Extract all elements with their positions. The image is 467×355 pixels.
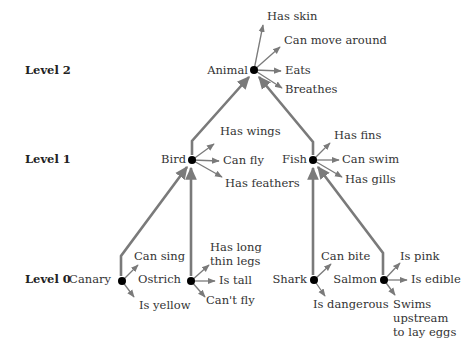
node-label-fish: Fish — [282, 152, 307, 166]
attr-salmon-is-edible: Is edible — [411, 272, 461, 286]
node-label-animal: Animal — [207, 63, 248, 77]
node-ostrich — [187, 277, 195, 285]
attr-ostrich-is-tall: Is tall — [219, 273, 252, 287]
attr-bird-has-feathers: Has feathers — [225, 176, 300, 190]
attr-shark-can-bite: Can bite — [321, 249, 370, 263]
attr-salmon-swims-upstream: Swims upstream to lay eggs — [393, 297, 456, 339]
attr-salmon-is-pink: Is pink — [400, 249, 440, 263]
node-fish — [309, 156, 317, 164]
attr-fish-can-swim: Can swim — [342, 152, 399, 166]
attr-animal-eats: Eats — [285, 63, 311, 77]
attr-ostrich-has-long-thin-legs: Has long thin legs — [210, 240, 262, 268]
node-label-salmon: Salmon — [333, 272, 377, 286]
node-label-bird: Bird — [161, 152, 186, 166]
attr-shark-is-dangerous: Is dangerous — [313, 297, 389, 311]
attr-fish-has-gills: Has gills — [345, 172, 396, 186]
attr-ostrich-cant-fly: Can't fly — [206, 293, 255, 307]
attr-canary-can-sing: Can sing — [134, 249, 185, 263]
link-bird-animal — [192, 77, 249, 155]
attr-animal-breathes: Breathes — [285, 82, 337, 96]
node-label-canary: Canary — [69, 272, 111, 286]
attr-animal-can-move-around: Can move around — [284, 33, 387, 47]
attr-bird-has-wings: Has wings — [220, 124, 281, 138]
node-bird — [188, 156, 196, 164]
node-salmon — [380, 276, 388, 284]
attr-animal-has-skin: Has skin — [267, 9, 317, 23]
node-canary — [118, 277, 126, 285]
attr-fish-has-fins: Has fins — [334, 128, 381, 142]
node-animal — [250, 66, 258, 74]
level-1-label: Level 1 — [25, 152, 71, 166]
node-label-shark: Shark — [272, 272, 307, 286]
level-0-label: Level 0 — [25, 272, 71, 286]
level-2-label: Level 2 — [25, 63, 71, 77]
node-shark — [310, 276, 318, 284]
attr-bird-can-fly: Can fly — [223, 153, 264, 167]
node-label-ostrich: Ostrich — [138, 272, 181, 286]
attr-canary-is-yellow: Is yellow — [139, 298, 191, 312]
